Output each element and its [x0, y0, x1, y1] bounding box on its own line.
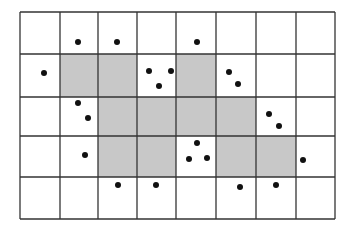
- shaded-cell: [60, 54, 98, 97]
- data-point: [168, 68, 174, 74]
- data-point: [266, 111, 272, 117]
- data-point: [300, 157, 306, 163]
- data-point: [273, 182, 279, 188]
- data-point: [204, 155, 210, 161]
- shaded-cell: [216, 136, 256, 177]
- data-point: [146, 68, 152, 74]
- shaded-cell: [176, 54, 216, 97]
- data-point: [115, 182, 121, 188]
- shaded-cells: [60, 54, 296, 177]
- data-point: [41, 70, 47, 76]
- shaded-cell: [216, 97, 256, 136]
- shaded-cell: [176, 97, 216, 136]
- shaded-cell: [137, 97, 176, 136]
- data-point: [235, 81, 241, 87]
- data-point: [153, 182, 159, 188]
- data-point: [194, 140, 200, 146]
- data-point: [82, 152, 88, 158]
- data-point: [237, 184, 243, 190]
- data-point: [194, 39, 200, 45]
- data-point: [75, 100, 81, 106]
- data-point: [75, 39, 81, 45]
- data-point: [85, 115, 91, 121]
- shaded-cell: [256, 136, 296, 177]
- data-point: [226, 69, 232, 75]
- data-point: [186, 156, 192, 162]
- data-point: [114, 39, 120, 45]
- shaded-cell: [98, 97, 137, 136]
- shaded-cell: [137, 136, 176, 177]
- data-point: [276, 123, 282, 129]
- grid-diagram: [0, 0, 353, 232]
- shaded-cell: [98, 54, 137, 97]
- data-point: [156, 83, 162, 89]
- shaded-cell: [98, 136, 137, 177]
